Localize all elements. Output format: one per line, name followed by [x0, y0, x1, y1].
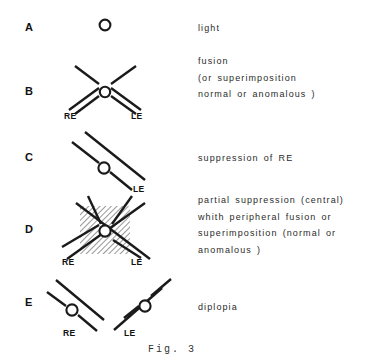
figure-3: A light B RE LE fusion (or superimpositi… [0, 0, 368, 364]
panel-e-description: diplopia [198, 299, 238, 315]
diplopia-circle-le [139, 300, 150, 311]
diplopia-circle-re [66, 304, 77, 315]
panel-e-re-line-lower-b [78, 315, 97, 331]
panel-e-re-line-upper [56, 280, 104, 320]
panel-e-label-le: LE [124, 328, 135, 338]
figure-caption: Fig. 3 [148, 344, 196, 355]
panel-e-le-line-upper-b [151, 279, 171, 296]
panel-e-diagram [0, 0, 368, 364]
panel-e-re-line-lower-a [47, 292, 66, 306]
panel-e-label-re: RE [63, 328, 75, 338]
